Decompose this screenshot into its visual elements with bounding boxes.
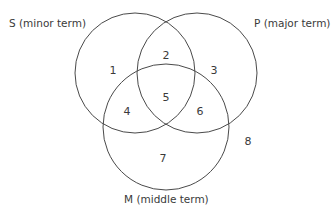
region-2: 2 — [163, 49, 170, 62]
region-7: 7 — [160, 152, 167, 165]
region-4: 4 — [124, 105, 131, 118]
region-6: 6 — [197, 105, 204, 118]
region-1: 1 — [110, 64, 117, 77]
region-3: 3 — [211, 64, 218, 77]
label-s-minor-term: S (minor term) — [9, 17, 86, 29]
circle-s-minor-term — [75, 13, 195, 133]
region-8: 8 — [245, 135, 252, 148]
region-5: 5 — [163, 91, 170, 104]
label-m-middle-term: M (middle term) — [124, 193, 209, 205]
circle-m-middle-term — [103, 64, 229, 190]
label-p-major-term: P (major term) — [254, 17, 330, 29]
venn-diagram — [0, 0, 331, 208]
